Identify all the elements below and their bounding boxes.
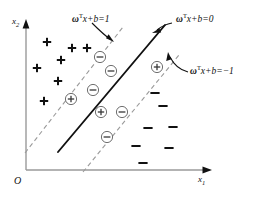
negative-class-sample xyxy=(158,105,167,107)
hyperplane-equation-rest: x+b=0 xyxy=(187,14,214,24)
y-axis-label: x2 xyxy=(12,16,19,28)
origin-label: O xyxy=(14,175,21,186)
hyperplane-equation-label: ωTx+b=0 xyxy=(176,12,213,24)
negative-class-sample xyxy=(131,145,140,147)
negative-support-vector xyxy=(94,51,105,62)
negative-class-sample xyxy=(164,147,173,149)
negative-support-vector xyxy=(105,65,116,76)
positive-class-sample xyxy=(68,44,76,52)
y-axis-arrowhead xyxy=(23,19,30,29)
negative-support-vector xyxy=(101,131,112,142)
upper-margin-equation-rest: x+b=1 xyxy=(83,14,110,24)
hyperplane-leader-arrowhead xyxy=(152,28,161,33)
positive-support-vector xyxy=(95,106,106,117)
x-axis-arrowhead xyxy=(203,167,213,174)
omega-symbol-upper: ω xyxy=(72,14,79,24)
negative-class-sample xyxy=(150,92,159,94)
y-axis-label-sub: 2 xyxy=(16,21,19,28)
negative-class-sample xyxy=(168,126,177,128)
negative-class-sample xyxy=(138,162,147,164)
negative-support-vector xyxy=(87,84,98,95)
positive-class-sample xyxy=(83,44,91,52)
negative-class-sample xyxy=(143,127,152,129)
positive-class-sample xyxy=(40,97,48,105)
lower-margin-equation-rest: x+b=−1 xyxy=(201,66,234,76)
positive-support-vector xyxy=(151,61,162,72)
positive-class-sample xyxy=(43,38,51,46)
positive-support-vector xyxy=(65,93,76,104)
diagram-canvas xyxy=(0,0,258,198)
positive-class-sample xyxy=(33,64,41,72)
svm-margin-diagram: ωTx+b=1 ωTx+b=0 ωTx+b=−1 x2 x1 O xyxy=(0,0,258,198)
omega-symbol-lower: ω xyxy=(190,66,197,76)
x-axis-label-sub: 1 xyxy=(202,179,205,186)
x-axis-label: x1 xyxy=(198,174,205,186)
lower-margin-equation-label: ωTx+b=−1 xyxy=(190,64,234,76)
upper-margin-leader-arrowhead xyxy=(106,34,114,42)
positive-class-sample xyxy=(54,77,62,85)
omega-symbol-hyperplane: ω xyxy=(176,14,183,24)
lower-margin-leader-arrow xyxy=(170,57,188,72)
negative-support-vector xyxy=(116,106,127,117)
lower-margin-leader-arrowhead xyxy=(166,52,171,61)
positive-class-sample xyxy=(57,56,65,64)
upper-margin-equation-label: ωTx+b=1 xyxy=(72,12,109,24)
